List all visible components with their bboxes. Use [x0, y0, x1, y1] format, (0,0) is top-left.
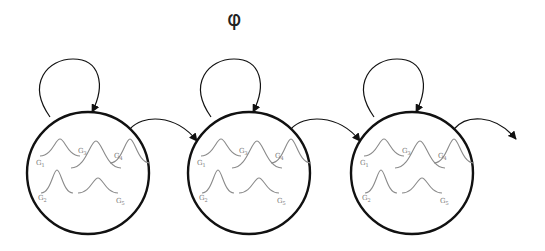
gaussian-curve	[365, 170, 397, 193]
gaussian-label: G2	[199, 194, 208, 203]
gaussian-label: G3	[239, 147, 248, 156]
gaussian-curve	[41, 170, 73, 193]
gaussian-label: G2	[362, 194, 371, 203]
gaussian-label: G5	[277, 197, 286, 206]
gaussian-label: G1	[197, 159, 206, 168]
self-loop-arrow	[201, 59, 261, 117]
transition-arrow	[454, 119, 516, 139]
gaussian-label: G2	[38, 194, 47, 203]
gaussian-curve	[78, 178, 118, 193]
gaussian-label: G3	[78, 147, 87, 156]
state-1: G1G3G4G2G5	[27, 59, 150, 234]
hmm-diagram: G1G3G4G2G5G1G3G4G2G5G1G3G4G2G5	[0, 0, 545, 251]
gaussian-curve	[40, 139, 80, 156]
transition-arrow	[130, 119, 197, 141]
gaussian-label: G5	[116, 197, 125, 206]
gaussian-curve	[201, 139, 241, 156]
self-loop-arrow	[40, 59, 100, 117]
state-2: G1G3G4G2G5	[188, 59, 311, 234]
state-circle	[351, 112, 473, 234]
gaussian-label: G1	[360, 159, 369, 168]
gaussian-curve	[202, 170, 234, 193]
gaussian-curve	[364, 139, 404, 156]
gaussian-curve	[402, 178, 442, 193]
gaussian-label: G1	[36, 159, 45, 168]
gaussian-label: G3	[402, 147, 411, 156]
self-loop-arrow	[364, 59, 424, 117]
state-3: G1G3G4G2G5	[351, 59, 474, 234]
transition-arrow	[291, 119, 360, 141]
gaussian-curve	[239, 178, 279, 193]
state-circle	[188, 112, 310, 234]
state-circle	[27, 112, 149, 234]
gaussian-label: G5	[440, 197, 449, 206]
